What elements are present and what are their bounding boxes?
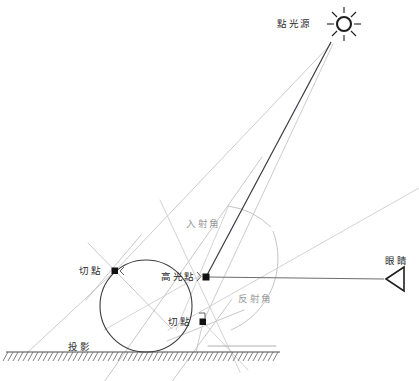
tangent-ray-bottom	[196, 44, 333, 352]
incident-ray	[206, 42, 331, 277]
tangent-point-bottom-marker	[200, 319, 207, 326]
tangent-ray-left	[28, 44, 331, 352]
label-projection: 投影	[68, 342, 91, 352]
angle-arcs	[228, 206, 278, 330]
label-tangent-point-bottom: 切點	[168, 317, 191, 327]
diagram-vector-layer	[0, 0, 419, 381]
ground-hatching	[3, 352, 278, 361]
ground	[3, 352, 280, 361]
label-eye: 眼睛	[385, 256, 408, 266]
highlight-point-marker	[203, 274, 210, 281]
label-light-source: 點光源	[277, 19, 312, 29]
tangent-bottom-bracket	[199, 313, 205, 318]
sun-icon	[327, 7, 361, 41]
label-incident-angle: 入射角	[186, 219, 221, 229]
reflected-ray-to-eye	[206, 277, 384, 279]
construction-lines	[28, 44, 419, 381]
diagram-canvas: 點光源 入射角 反射角 高光點 切點 切點 投影 眼睛	[0, 0, 419, 381]
label-highlight-point: 高光點	[161, 272, 196, 282]
eye-triangle-icon	[386, 267, 404, 291]
label-tangent-point-left: 切點	[79, 266, 102, 276]
tangent-point-left-marker	[112, 268, 119, 275]
reflection-angle-arc	[231, 231, 278, 330]
label-reflection-angle: 反射角	[238, 294, 273, 304]
